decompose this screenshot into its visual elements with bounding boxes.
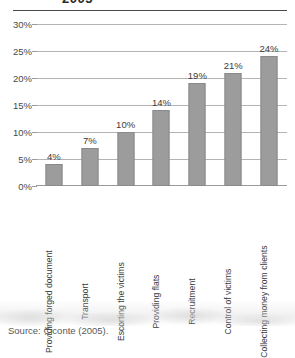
bar[interactable] (225, 73, 242, 186)
bar-value-label: 21% (224, 60, 243, 71)
bar-column[interactable]: 10% (108, 24, 144, 186)
bar-column[interactable]: 21% (215, 24, 251, 186)
bar[interactable] (189, 83, 206, 186)
bar-chart: 4%7%10%14%19%21%24% 0%5%10%15%20%25%30% (0, 14, 295, 186)
category-label-column: Transport (72, 190, 108, 302)
bar[interactable] (45, 164, 62, 186)
bar[interactable] (81, 148, 98, 186)
bar-column[interactable]: 19% (179, 24, 215, 186)
y-axis-tick-mark (32, 51, 37, 52)
bar-column[interactable]: 14% (144, 24, 180, 186)
bar-column[interactable]: 7% (72, 24, 108, 186)
y-axis-tick-label: 25% (2, 46, 32, 57)
x-axis-category-labels: Providing forged documentTransportEscort… (36, 190, 287, 302)
bar[interactable] (153, 110, 170, 186)
y-axis-tick-mark (32, 105, 37, 106)
y-axis-tick-label: 10% (2, 127, 32, 138)
y-axis-tick-label: 20% (2, 73, 32, 84)
y-axis-tick-label: 0% (2, 181, 32, 192)
bar-value-label: 14% (152, 97, 171, 108)
y-axis-tick-mark (32, 24, 37, 25)
category-label-column: Providing forged document (36, 190, 72, 302)
plot-area: 4%7%10%14%19%21%24% (36, 24, 287, 186)
bar-column[interactable]: 4% (36, 24, 72, 186)
category-label-column: Providing flats (144, 190, 180, 302)
chart-title: 2005 (62, 0, 93, 6)
y-axis-tick-mark (32, 186, 37, 187)
bar-value-label: 24% (260, 43, 279, 54)
y-axis-tick-label: 15% (2, 100, 32, 111)
bar-value-label: 7% (83, 135, 97, 146)
y-axis-tick-mark (32, 78, 37, 79)
category-label-column: Collecting money from clients (251, 190, 287, 302)
y-axis-tick-label: 30% (2, 19, 32, 30)
bar[interactable] (117, 132, 134, 186)
bar-value-label: 4% (47, 151, 61, 162)
y-axis-tick-label: 5% (2, 154, 32, 165)
bar-value-label: 19% (188, 70, 207, 81)
bar[interactable] (261, 56, 278, 186)
top-divider-rule (13, 10, 287, 11)
category-label-column: Escorting the victims (108, 190, 144, 302)
chart-title-clip: 2005 (0, 0, 295, 9)
category-label-column: Control of victims (215, 190, 251, 302)
source-caption: Source: Ciconte (2005). (8, 325, 108, 336)
scanned-paper-band (0, 300, 295, 326)
y-axis-tick-mark (32, 132, 37, 133)
bar-series: 4%7%10%14%19%21%24% (36, 24, 287, 186)
category-label-column: Recruitment (179, 190, 215, 302)
bar-value-label: 10% (116, 119, 135, 130)
y-axis-tick-mark (32, 159, 37, 160)
bar-column[interactable]: 24% (251, 24, 287, 186)
